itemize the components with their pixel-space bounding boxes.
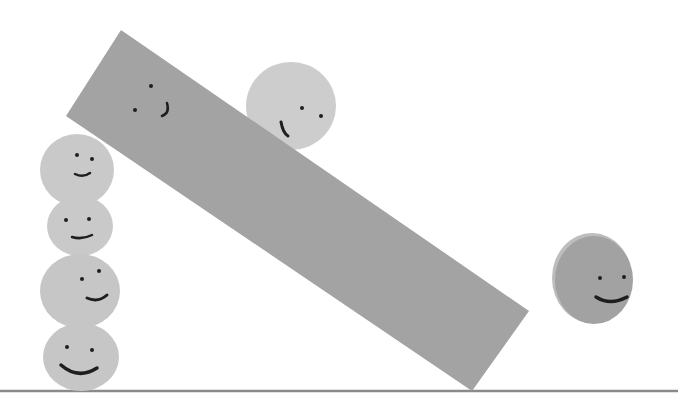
eye-dot bbox=[75, 153, 79, 157]
ball-body bbox=[40, 254, 120, 328]
eye-dot bbox=[65, 345, 69, 349]
stack-ball-4[interactable] bbox=[43, 323, 119, 391]
scene-canvas[interactable] bbox=[0, 0, 678, 416]
ball-body bbox=[47, 196, 113, 256]
eye-dot bbox=[87, 217, 91, 221]
stack-ball-3[interactable] bbox=[40, 254, 120, 328]
eye-dot bbox=[319, 114, 323, 118]
eye-dot bbox=[97, 269, 101, 273]
eye-dot bbox=[80, 277, 84, 281]
ball-right-rolling[interactable] bbox=[552, 233, 633, 324]
eye-dot bbox=[90, 348, 94, 352]
stack-ball-2[interactable] bbox=[47, 196, 113, 256]
eye-dot bbox=[64, 218, 68, 222]
eye-dot bbox=[300, 106, 304, 110]
ball-body bbox=[40, 134, 114, 206]
ball-body bbox=[43, 323, 119, 391]
ball-body bbox=[555, 236, 633, 324]
eye-dot bbox=[622, 275, 626, 279]
eye-dot bbox=[598, 276, 602, 280]
eye-dot bbox=[90, 157, 94, 161]
eye-dot bbox=[133, 108, 137, 112]
eye-dot bbox=[149, 84, 153, 88]
game-scene bbox=[0, 0, 678, 416]
stack-ball-1[interactable] bbox=[40, 134, 114, 206]
